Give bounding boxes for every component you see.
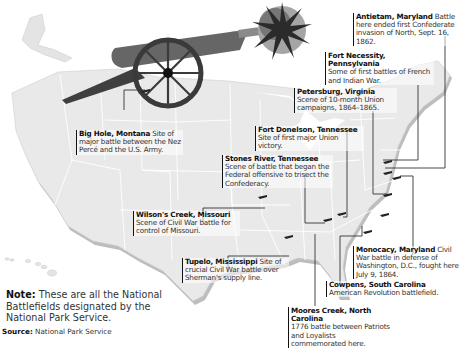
battlefield-description: Some of first battles of French and Indi…	[328, 67, 430, 84]
marker-cowpens	[363, 230, 372, 234]
map-source: Source: National Park Service	[2, 327, 112, 336]
label-antietam: Antietam, Maryland Battle here ended fir…	[353, 13, 461, 46]
label-moores-creek: Moores Creek, North Carolina 1776 battle…	[288, 307, 391, 348]
label-stones-river: Stones River, Tennessee Scene of battle …	[222, 155, 333, 188]
battlefield-description: Scene of Civil War battle for control of…	[136, 218, 231, 235]
source-text: National Park Service	[35, 327, 112, 336]
battlefield-description: Scene of battle that began the Federal o…	[225, 162, 329, 187]
marker-monocacy	[392, 176, 401, 180]
label-petersburg: Petersburg, Virginia Scene of 10-month U…	[294, 88, 397, 113]
label-fort-necessity: Fort Necessity, Pennsylvania Some of fir…	[325, 52, 434, 85]
source-label: Source:	[2, 327, 33, 336]
hawaii-islands	[5, 258, 57, 276]
alaska-fragment	[22, 14, 72, 62]
cannon-wheel	[135, 40, 201, 106]
battlefield-description: 1776 battle between Patriots and Loyalis…	[291, 322, 390, 347]
label-wilsons-creek: Wilson's Creek, Missouri Scene of Civil …	[133, 211, 240, 236]
marker-moores-creek	[380, 213, 389, 217]
battlefield-description: American Revolution battlefield.	[329, 288, 438, 297]
battlefield-description: Site of first major Union victory.	[258, 133, 338, 150]
cannon-muzzle	[238, 27, 259, 38]
label-big-hole: Big Hole, Montana Site of major battle b…	[76, 130, 183, 155]
label-fort-donelson: Fort Donelson, Tennessee Site of first m…	[255, 126, 364, 151]
label-monocacy: Monocacy, Maryland Civil War battle in d…	[353, 246, 461, 279]
note-label: Note:	[6, 289, 36, 300]
explosion-burst	[252, 2, 312, 60]
label-cowpens: Cowpens, South Carolina American Revolut…	[326, 281, 449, 297]
battlefield-name: Fort Necessity, Pennsylvania	[328, 51, 385, 68]
map-note: Note: These are all the National Battlef…	[6, 289, 191, 324]
battlefield-description: Scene of 10-month Union campaigns, 1864–…	[297, 95, 384, 112]
label-tupelo: Tupelo, Mississippi Site of crucial Civi…	[182, 258, 289, 283]
battlefield-name: Moores Creek, North Carolina	[291, 306, 371, 323]
